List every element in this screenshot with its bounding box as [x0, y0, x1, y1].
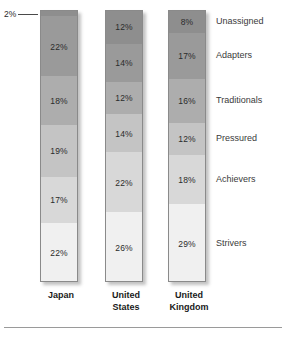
country-caption: Japan [34, 290, 88, 302]
segment-value-label: 26% [115, 244, 132, 253]
bar-segment: 17% [41, 177, 77, 223]
segment-value-label: 8% [181, 18, 194, 27]
segment-value-label: 14% [115, 59, 132, 68]
segment-value-label: 18% [50, 97, 67, 106]
segment-value-label: 29% [178, 240, 195, 249]
bar-segment: 8% [169, 11, 205, 33]
stacked-bar-chart: 2% 2%22%18%19%17%22%Japan12%14%12%14%22%… [0, 0, 286, 339]
segment-value-label: 19% [50, 147, 67, 156]
category-label: Adapters [216, 50, 252, 60]
category-label: Pressured [216, 133, 257, 143]
category-label: Achievers [216, 174, 256, 184]
category-label: Traditionals [216, 95, 262, 105]
country-caption-line: States [99, 302, 153, 314]
bar-segment: 26% [106, 212, 142, 282]
segment-value-label: 22% [50, 249, 67, 258]
callout-leader-line [18, 14, 38, 15]
callout-japan-unassigned: 2% [4, 8, 38, 20]
category-legend: UnassignedAdaptersTraditionalsPressuredA… [216, 0, 286, 272]
bar-segment: 22% [106, 152, 142, 212]
bar-stack: 2%22%18%19%17%22% [40, 10, 78, 282]
segment-value-label: 16% [178, 97, 195, 106]
bar-segment: 18% [41, 76, 77, 125]
bar-segment: 12% [169, 123, 205, 156]
country-caption-line: Japan [48, 290, 74, 300]
segment-value-label: 12% [115, 94, 132, 103]
country-caption: UnitedKingdom [162, 290, 216, 313]
country-caption-line: Kingdom [162, 302, 216, 314]
bar-segment: 18% [169, 155, 205, 204]
bar-segment: 12% [106, 11, 142, 44]
bar-segment: 19% [41, 125, 77, 177]
bottom-divider [4, 327, 282, 328]
bar-stack: 12%14%12%14%22%26% [105, 10, 143, 282]
segment-value-label: 17% [50, 196, 67, 205]
bar-segment: 29% [169, 204, 205, 282]
country-caption-line: United [175, 290, 203, 300]
segment-value-label: 18% [178, 176, 195, 185]
bar-segment: 17% [169, 33, 205, 79]
segment-value-label: 22% [50, 43, 67, 52]
country-caption-line: United [112, 290, 140, 300]
bar-segment: 12% [106, 82, 142, 115]
segment-value-label: 22% [115, 179, 132, 188]
bar-segment: 22% [41, 223, 77, 282]
segment-value-label: 12% [115, 23, 132, 32]
segment-value-label: 14% [115, 130, 132, 139]
callout-label: 2% [4, 10, 16, 19]
bar-segment: 14% [106, 44, 142, 82]
country-caption: UnitedStates [99, 290, 153, 313]
bar-segment: 22% [41, 16, 77, 76]
category-label: Strivers [216, 238, 247, 248]
bar-segment: 14% [106, 114, 142, 152]
segment-value-label: 12% [178, 135, 195, 144]
segment-value-label: 17% [178, 52, 195, 61]
category-label: Unassigned [216, 16, 264, 26]
bar-segment: 16% [169, 79, 205, 123]
bar-stack: 8%17%16%12%18%29% [168, 10, 206, 282]
